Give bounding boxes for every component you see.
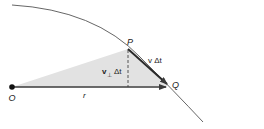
velocity-displacement-label: v Δt <box>148 56 163 65</box>
svg-text:⊥: ⊥ <box>107 72 112 78</box>
swept-area-triangle <box>12 49 168 87</box>
origin-point-icon <box>9 84 15 90</box>
svg-text:Δt: Δt <box>114 67 122 76</box>
origin-label: O <box>9 93 16 103</box>
point-q-label: Q <box>172 80 179 90</box>
point-p-label: P <box>127 37 133 47</box>
radius-label: r <box>83 91 86 100</box>
kepler-area-diagram: O P Q r v Δt v ⊥ Δt <box>0 0 264 129</box>
